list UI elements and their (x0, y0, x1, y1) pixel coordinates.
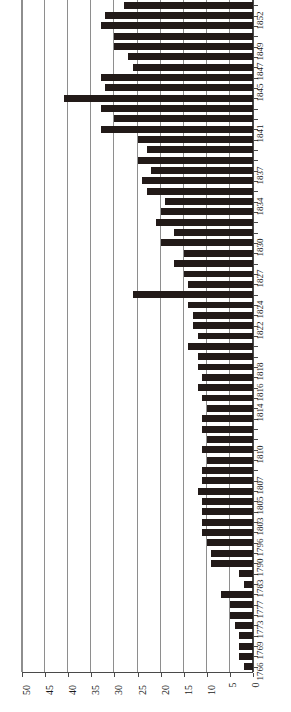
bar-row (22, 281, 253, 288)
bar-1830 (161, 239, 253, 246)
bar-1813 (202, 415, 253, 422)
bar-row (22, 550, 253, 557)
category-label-1837: 1837 (256, 166, 265, 184)
bar-1818 (198, 364, 253, 371)
bar-1821 (198, 333, 253, 340)
bar-row (22, 426, 253, 433)
value-tick-30 (114, 673, 115, 677)
category-label-1796: 1796 (256, 538, 265, 556)
bar-1834 (165, 198, 253, 205)
bar-row (22, 208, 253, 215)
bar-1808 (202, 467, 253, 474)
category-tick (254, 295, 258, 296)
category-tick (254, 191, 258, 192)
value-tick-20 (161, 673, 162, 677)
value-tick-25 (138, 673, 139, 677)
bar-1793 (211, 550, 253, 557)
bar-row (22, 612, 253, 619)
value-label-25: 25 (138, 685, 148, 695)
bar-1823 (193, 312, 253, 319)
bar-1840 (138, 136, 254, 143)
category-tick (254, 36, 258, 37)
bar-1843 (101, 105, 253, 112)
bar-row (22, 508, 253, 515)
bar-1847 (133, 64, 253, 71)
bar-row (22, 136, 253, 143)
bar-1817 (202, 374, 253, 381)
bar-1832 (156, 219, 253, 226)
bar-1796 (207, 539, 253, 546)
category-label-1849: 1849 (256, 42, 265, 60)
bar-1848 (128, 53, 253, 60)
category-tick (254, 222, 258, 223)
category-label-1807: 1807 (256, 476, 265, 494)
category-tick (254, 439, 258, 440)
category-tick (254, 346, 258, 347)
bar-row (22, 395, 253, 402)
bar-1845 (105, 84, 253, 91)
bar-row (22, 353, 253, 360)
bar-1786 (239, 570, 253, 577)
bar-row (22, 446, 253, 453)
bar-row (22, 105, 253, 112)
bar-row (22, 22, 253, 29)
value-tick-35 (91, 673, 92, 677)
category-label-1830: 1830 (256, 238, 265, 256)
category-label-1803: 1803 (256, 518, 265, 536)
bar-1850 (114, 33, 253, 40)
category-label-1834: 1834 (256, 197, 265, 215)
bar-row (22, 467, 253, 474)
category-label-1769: 1769 (256, 642, 265, 660)
category-tick (254, 5, 258, 6)
value-label-10: 10 (207, 685, 217, 695)
bar-row (22, 663, 253, 670)
bar-row (22, 291, 253, 298)
bar-1781 (221, 591, 253, 598)
value-axis: 50454035302520151050 (22, 672, 253, 712)
bar-row (22, 188, 253, 195)
category-label-1777: 1777 (256, 600, 265, 618)
bar-1852 (105, 12, 253, 19)
bar-1829 (184, 250, 253, 257)
bar-1831 (174, 229, 253, 236)
category-label-1814: 1814 (256, 404, 265, 422)
bar-row (22, 436, 253, 443)
bar-row (22, 539, 253, 546)
value-tick-45 (45, 673, 46, 677)
bar-row (22, 229, 253, 236)
bar-row (22, 64, 253, 71)
bar-row (22, 632, 253, 639)
bar-1768 (239, 653, 253, 660)
bar-1783 (244, 581, 253, 588)
bar-1771 (239, 632, 253, 639)
bar-1844 (64, 95, 253, 102)
bar-row (22, 260, 253, 267)
bar-row (22, 591, 253, 598)
bar-row (22, 488, 253, 495)
bar-1822 (193, 322, 253, 329)
bar-row (22, 405, 253, 412)
category-label-1845: 1845 (256, 83, 265, 101)
category-tick (254, 233, 258, 234)
bar-1811 (207, 436, 253, 443)
category-label-1852: 1852 (256, 11, 265, 29)
value-tick-40 (68, 673, 69, 677)
category-label-1816: 1816 (256, 383, 265, 401)
bar-row (22, 653, 253, 660)
bar-row (22, 415, 253, 422)
bar-row (22, 312, 253, 319)
value-label-50: 50 (22, 685, 32, 695)
bar-1766 (244, 663, 253, 670)
category-label-1805: 1805 (256, 497, 265, 515)
value-label-0: 0 (251, 683, 261, 688)
category-label-1827: 1827 (256, 269, 265, 287)
bar-row (22, 601, 253, 608)
bar-chart: 1852184918471845184118371834183018271824… (0, 0, 291, 712)
value-label-40: 40 (68, 685, 78, 695)
bar-row (22, 302, 253, 309)
bar-row (22, 570, 253, 577)
category-label-1822: 1822 (256, 321, 265, 339)
bar-row (22, 43, 253, 50)
category-axis-years: 1852184918471845184118371834183018271824… (253, 0, 291, 672)
bar-1846 (101, 74, 253, 81)
